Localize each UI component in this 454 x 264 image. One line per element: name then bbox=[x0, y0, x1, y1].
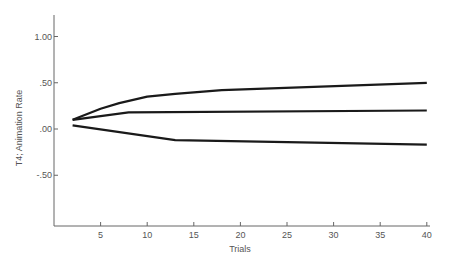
x-tick-label: 35 bbox=[375, 230, 385, 240]
x-tick-label: 20 bbox=[235, 230, 245, 240]
x-tick-label: 15 bbox=[189, 230, 199, 240]
series-line-middle bbox=[73, 111, 427, 120]
x-tick-label: 30 bbox=[329, 230, 339, 240]
series-lines bbox=[73, 83, 427, 145]
y-axis-title: T4; Animation Rate bbox=[14, 90, 24, 167]
series-line-upper bbox=[73, 83, 427, 120]
y-tick-label: -.50 bbox=[36, 170, 52, 180]
line-chart: 1.00.50.00-.50510152025303540 Trials T4;… bbox=[0, 0, 454, 264]
x-axis-title: Trials bbox=[229, 244, 251, 254]
x-tick-label: 5 bbox=[98, 230, 103, 240]
series-line-lower bbox=[73, 125, 427, 144]
x-tick-label: 25 bbox=[282, 230, 292, 240]
y-tick-label: 1.00 bbox=[34, 32, 52, 42]
y-tick-label: .00 bbox=[39, 124, 52, 134]
x-tick-label: 40 bbox=[422, 230, 432, 240]
x-tick-label: 10 bbox=[142, 230, 152, 240]
y-tick-label: .50 bbox=[39, 78, 52, 88]
